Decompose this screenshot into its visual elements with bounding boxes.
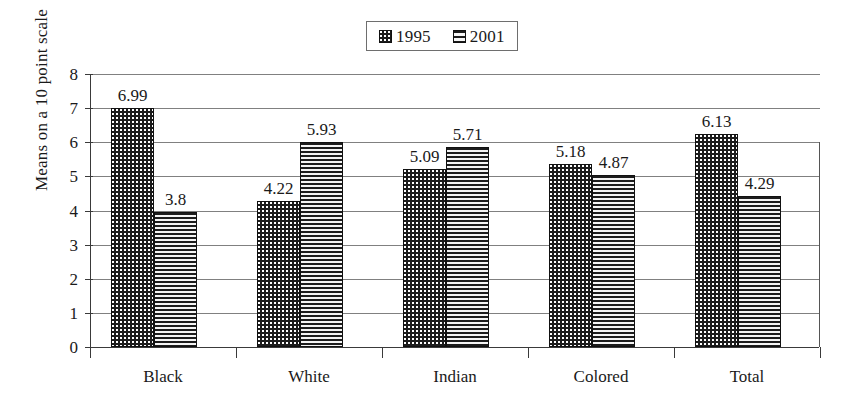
bar-value-1995-total: 6.13 (685, 113, 748, 130)
y-tick-label-6: 6 (52, 134, 78, 151)
x-tick-black (236, 347, 237, 358)
bar-2001-colored (592, 175, 635, 347)
chart-legend: 1995 2001 (366, 21, 518, 51)
y-tick-mark-6 (85, 142, 93, 143)
y-tick-mark-2 (85, 279, 93, 280)
bar-2001-white (300, 142, 343, 347)
bar-1995-white (257, 201, 300, 347)
bar-2001-total (738, 196, 781, 347)
legend-entry-1995: 1995 (379, 28, 431, 45)
bar-chart: 1995 2001 Means on a 10 point scale 0123… (0, 0, 847, 405)
x-tick-origin (90, 347, 91, 358)
x-tick-indian (528, 347, 529, 358)
legend-swatch-1995-icon (379, 30, 392, 43)
y-tick-mark-7 (85, 108, 93, 109)
y-tick-label-7: 7 (52, 100, 78, 117)
bar-value-2001-white: 5.93 (290, 121, 353, 138)
bar-value-2001-black: 3.8 (144, 191, 207, 208)
x-category-label-total: Total (674, 368, 820, 385)
bar-2001-black (154, 212, 197, 347)
bar-value-1995-black: 6.99 (101, 87, 164, 104)
legend-label-2001: 2001 (470, 28, 505, 45)
x-category-label-black: Black (90, 368, 236, 385)
y-tick-label-2: 2 (52, 271, 78, 288)
y-tick-label-5: 5 (52, 168, 78, 185)
y-tick-label-1: 1 (52, 305, 78, 322)
plot-right-border (819, 142, 820, 347)
legend-swatch-2001-icon (453, 30, 466, 43)
bar-value-2001-total: 4.29 (728, 175, 791, 192)
x-category-label-white: White (236, 368, 382, 385)
y-tick-mark-0 (85, 347, 93, 348)
legend-entry-2001: 2001 (453, 28, 505, 45)
legend-label-1995: 1995 (396, 28, 431, 45)
y-tick-mark-3 (85, 245, 93, 246)
y-tick-label-3: 3 (52, 237, 78, 254)
y-axis-title: Means on a 10 point scale (32, 0, 52, 230)
gridline-8 (90, 74, 820, 75)
y-tick-mark-1 (85, 313, 93, 314)
gridline-0 (90, 347, 819, 348)
x-tick-white (382, 347, 383, 358)
gridline-7 (90, 108, 820, 109)
y-tick-mark-5 (85, 176, 93, 177)
y-tick-label-8: 8 (52, 66, 78, 83)
x-category-label-colored: Colored (528, 368, 674, 385)
y-tick-mark-4 (85, 211, 93, 212)
bar-1995-indian (403, 169, 446, 347)
bar-value-2001-indian: 5.71 (436, 126, 499, 143)
bar-2001-indian (446, 147, 489, 347)
y-tick-label-4: 4 (52, 203, 78, 220)
bar-1995-black (111, 108, 154, 347)
bar-value-2001-colored: 4.87 (582, 154, 645, 171)
x-tick-colored (674, 347, 675, 358)
y-tick-mark-8 (85, 74, 93, 75)
bar-1995-colored (549, 164, 592, 347)
y-tick-label-0: 0 (52, 339, 78, 356)
x-category-label-indian: Indian (382, 368, 528, 385)
bar-value-1995-white: 4.22 (247, 180, 310, 197)
x-tick-total (820, 347, 821, 358)
bar-1995-total (695, 134, 738, 347)
bar-value-1995-indian: 5.09 (393, 148, 456, 165)
